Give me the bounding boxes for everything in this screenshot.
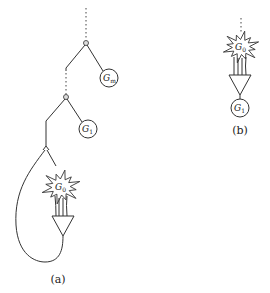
panel-a: Gm G1 G0 (a) <box>16 8 118 286</box>
diagram-canvas: Gm G1 G0 (a) <box>0 0 270 293</box>
merge-triangle-b <box>229 75 251 95</box>
junction-arrow-bottom <box>43 146 49 150</box>
edge-to-g1 <box>67 99 82 122</box>
caption-a: (a) <box>50 273 65 286</box>
edge-left-middle <box>46 99 65 146</box>
node-g0-starburst: G0 <box>42 170 80 204</box>
junction-node-top <box>84 41 89 46</box>
node-g1: G1 <box>79 120 97 138</box>
caption-b: (b) <box>232 124 248 137</box>
panel-b: G0 G1 (b) <box>223 18 258 137</box>
node-g1-b: G1 <box>231 99 249 117</box>
parallel-edges-b <box>234 57 246 75</box>
merge-triangle-a <box>52 216 74 236</box>
edge-to-g0 <box>47 150 56 166</box>
edge-to-gm <box>87 45 103 71</box>
node-gm: Gm <box>100 69 118 87</box>
edge-left-top <box>66 45 85 71</box>
junction-node-middle <box>64 95 69 100</box>
node-g0-starburst-b: G0 <box>223 31 258 63</box>
